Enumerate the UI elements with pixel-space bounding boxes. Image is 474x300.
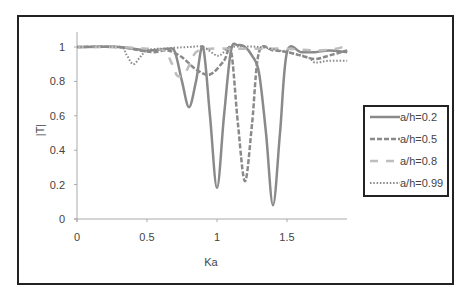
series-line-0 [77,44,347,206]
y-tick-label: 0.2 [50,179,65,191]
y-tick-label: 0.8 [50,75,65,87]
y-axis-title: |T| [34,124,46,136]
series-line-1 [77,46,347,181]
legend-label-2: a/h=0.8 [400,155,437,167]
line-chart: 00.20.40.60.81 00.511.5 Ka |T| a/h=0.2 a… [0,0,474,300]
x-tick-label: 0 [74,231,80,243]
series-line-2 [77,45,347,76]
y-tick-label: 0.4 [50,144,65,156]
y-tick-label: 1 [59,41,65,53]
legend-label-3: a/h=0.99 [400,177,443,189]
y-tick-label: 0 [59,213,65,225]
legend-label-0: a/h=0.2 [400,111,437,123]
x-tick-label: 1.5 [279,231,294,243]
y-tick-group: 00.20.40.60.81 [50,41,77,225]
x-tick-label: 0.5 [139,231,154,243]
series-group [77,44,347,206]
legend: a/h=0.2 a/h=0.5 a/h=0.8 a/h=0.99 [364,106,448,196]
x-tick-group: 00.511.5 [74,219,295,243]
x-axis-title: Ka [204,256,218,268]
legend-label-1: a/h=0.5 [400,133,437,145]
x-tick-label: 1 [214,231,220,243]
y-tick-label: 0.6 [50,110,65,122]
